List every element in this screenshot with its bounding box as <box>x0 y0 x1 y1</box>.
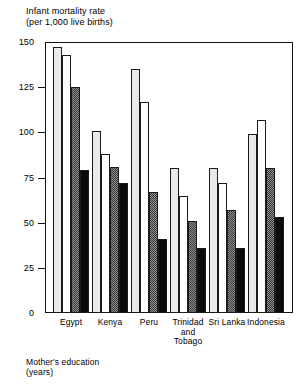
y-axis-tick-mark <box>38 87 45 88</box>
bar-group <box>53 42 89 313</box>
y-axis-tick-mark <box>38 223 45 224</box>
y-axis-tick-label: 0 <box>4 308 34 318</box>
y-axis-tick-label: 75 <box>4 173 34 183</box>
bar <box>71 87 80 313</box>
bar <box>149 192 158 313</box>
bar <box>227 210 236 313</box>
bar <box>275 217 284 313</box>
bar <box>62 55 71 313</box>
bar-group <box>170 42 206 313</box>
y-axis-tick-label: 25 <box>4 263 34 273</box>
bar <box>53 47 62 313</box>
chart-title: Infant mortality rate (per 1,000 live bi… <box>26 6 113 28</box>
bar-group <box>131 42 167 313</box>
bar <box>92 131 101 313</box>
x-axis-caption: Mother's education (years) <box>26 357 99 377</box>
bar <box>110 167 119 313</box>
bar <box>188 221 197 313</box>
bar <box>131 69 140 313</box>
y-axis-tick-mark <box>38 178 45 179</box>
bar <box>266 168 275 313</box>
bar-group <box>248 42 284 313</box>
bar <box>119 183 128 313</box>
bar-group <box>92 42 128 313</box>
bar <box>170 168 179 313</box>
bar <box>209 168 218 313</box>
bar <box>101 154 110 313</box>
y-axis-tick-label: 150 <box>4 37 34 47</box>
bar <box>248 134 257 313</box>
bars-layer <box>45 42 293 313</box>
y-axis-tick-mark <box>38 268 45 269</box>
bar <box>158 239 167 313</box>
y-axis-tick-label: 100 <box>4 127 34 137</box>
bar <box>257 120 266 313</box>
bar <box>236 248 245 313</box>
bar <box>140 102 149 313</box>
bar <box>179 196 188 313</box>
y-axis-tick-label: 125 <box>4 82 34 92</box>
x-axis-tick-label: Indonesia <box>242 318 290 328</box>
y-axis-tick-mark <box>38 132 45 133</box>
bar-group <box>209 42 245 313</box>
bar <box>197 248 206 313</box>
infant-mortality-bar-chart: Infant mortality rate (per 1,000 live bi… <box>0 0 301 386</box>
bar <box>80 170 89 313</box>
bar <box>218 183 227 313</box>
y-axis-tick-label: 50 <box>4 218 34 228</box>
